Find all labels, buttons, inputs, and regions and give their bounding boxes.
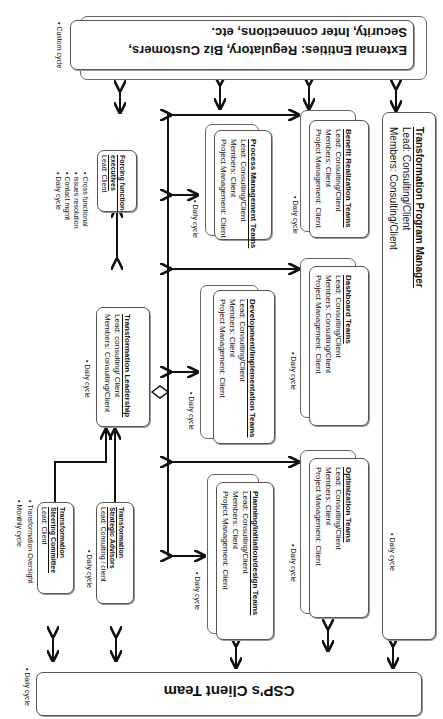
external-cycle: Custom cycle [54,22,64,68]
optimization-team-box: Optimization Teams Lead: Consulting/Clie… [309,458,369,618]
leadership-box: Transformation Leadership Lead: consulti… [96,307,150,427]
advisors-box: Transformation Strategic Advisors Lead: … [96,502,134,604]
forcing-notes: Cross functional issues resolution Conta… [54,172,90,229]
external-line1: External Entities: Regulatory, Biz Custo… [77,41,407,59]
process-cycle: Daily cycle [190,200,200,238]
external-line2: Security, Inter connections, etc. [77,23,407,41]
dashboard-cycle: Daily cycle [288,352,298,390]
client-team-title: CSP's Client Team [37,683,421,700]
process-team-box: Process Management Teams Lead: Consultin… [214,130,272,240]
client-team-cycle: Daily cycle [22,668,32,706]
dev-cycle: Daily cycle [186,392,196,430]
leadership-cycle: Daily cycle [82,360,92,398]
program-manager-box: Transformation Program Manager Lead: Con… [382,112,436,640]
dev-team-box: Development/Implementation Teams Lead: C… [213,290,275,444]
dashboard-team-box: Dashboard Teams Lead: Consulting/Client … [309,266,369,426]
planning-team-box: Planning/initiation/design Teams Lead: C… [216,482,274,640]
benefit-team-box: Benefit Realization Teams Lead: Consulti… [309,120,369,238]
benefit-cycle: Daily cycle [290,196,300,234]
client-team-box: CSP's Client Team [36,672,422,716]
steering-box: Transformation Steering Committee Lead: … [37,502,74,594]
external-entities-box: External Entities: Regulatory, Biz Custo… [70,20,414,70]
steering-notes: Transformation Oversight Monthly cycle [14,500,36,583]
junction-diamond [152,386,168,398]
planning-cycle: Daily cycle [192,572,202,610]
optimization-cycle: Daily cycle [288,544,298,582]
forcing-box: Forcing function- executives Lead: Clien… [97,150,137,212]
advisors-cycle: Daily cycle [84,550,94,588]
program-manager-cycle: Daily cycle [387,533,397,571]
